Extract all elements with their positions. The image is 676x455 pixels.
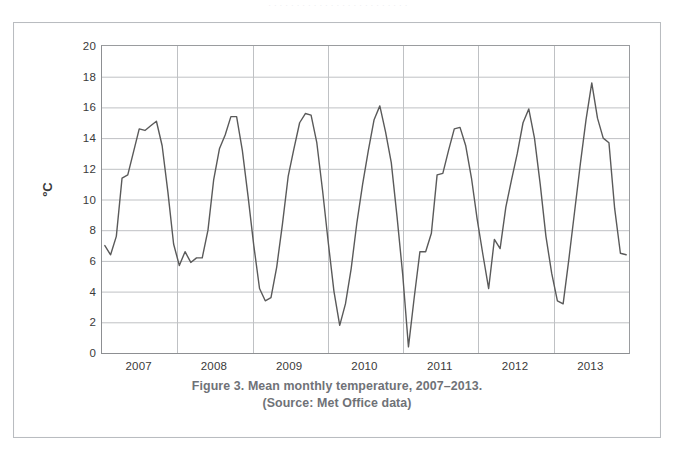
- y-axis-tick-label: 14: [59, 132, 101, 144]
- x-axis-tick-label: 2010: [351, 360, 377, 372]
- scanned-page: · · · · · · · · · · · · · · · · · · · · …: [0, 0, 676, 455]
- y-axis-tick-label: 6: [59, 255, 101, 267]
- x-axis-tick-label: 2013: [577, 360, 603, 372]
- caption-line-1: Figure 3. Mean monthly temperature, 2007…: [13, 378, 661, 395]
- x-axis-tick-label: 2012: [502, 360, 528, 372]
- y-axis-tick-label: 4: [59, 286, 101, 298]
- y-axis-tick-label: 18: [59, 71, 101, 83]
- horizontal-gridlines: [102, 77, 629, 323]
- figure-container: ºC 20181614121086420 2007200820092010201…: [13, 22, 661, 438]
- chart-svg: [102, 46, 629, 353]
- y-axis-tick-label: 2: [59, 316, 101, 328]
- y-axis-tick-label: 8: [59, 224, 101, 236]
- x-axis-tick-label: 2009: [276, 360, 302, 372]
- temperature-series-line: [105, 83, 626, 347]
- x-axis-tick-label: 2011: [427, 360, 453, 372]
- y-axis-tick-label: 20: [59, 40, 101, 52]
- y-axis-label: ºC: [40, 170, 55, 210]
- page-top-faint-text: · · · · · · · · · · · · · · · · · · · · …: [0, 0, 676, 12]
- x-axis-ticks: 2007200820092010201120122013: [101, 356, 632, 378]
- y-axis-tick-label: 16: [59, 101, 101, 113]
- plot-area: [101, 45, 630, 354]
- figure-caption: Figure 3. Mean monthly temperature, 2007…: [13, 378, 661, 412]
- y-axis-tick-label: 0: [59, 347, 101, 359]
- caption-line-2: (Source: Met Office data): [13, 395, 661, 412]
- temperature-line-chart: ºC 20181614121086420 2007200820092010201…: [13, 22, 661, 372]
- x-axis-tick-label: 2008: [201, 360, 227, 372]
- y-axis-tick-label: 10: [59, 194, 101, 206]
- y-axis-tick-label: 12: [59, 163, 101, 175]
- x-axis-tick-label: 2007: [125, 360, 151, 372]
- y-axis-ticks: 20181614121086420: [59, 22, 101, 372]
